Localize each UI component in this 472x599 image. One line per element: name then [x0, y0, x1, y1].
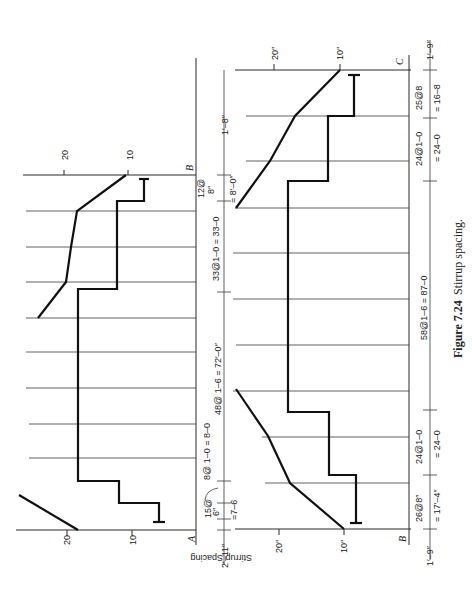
lower-dim-seg5: 25@8: [414, 86, 424, 110]
lower-support-label-b: B: [397, 536, 408, 542]
upper-required-spacing-curve-top: [38, 175, 126, 318]
lower-dim-seg2: 24@1–0: [414, 430, 424, 464]
lower-dim-seg3: 58@1–6 = 87–0: [419, 276, 429, 340]
stirrup-spacing-figure: 20 10 20 10 B A 1′–8″ 12@ 8″ = 8′–0″ 33@…: [0, 0, 472, 599]
lower-dim-seg1-total: = 17′–4″: [432, 489, 442, 522]
upper-dim-end-right: 1′–8″: [220, 114, 230, 135]
upper-dim-seg5-bot: 8″: [206, 185, 216, 194]
upper-dim-seg1-bot: 6″: [211, 507, 221, 516]
upper-dim-seg5-total: = 8′–0″: [228, 175, 238, 203]
figure-caption: Figure 7.24 Stirrup spacing.: [451, 219, 465, 358]
upper-diagram: 20 10 20 10 B A: [16, 58, 197, 545]
upper-support-label-b: B: [184, 165, 195, 171]
lower-required-spacing-curve-bottom: [236, 389, 344, 529]
upper-dim-leader: [205, 488, 218, 500]
lower-dim-seg1: 26@8″: [414, 494, 424, 522]
upper-tick-label-20-bottom: 20: [62, 535, 72, 545]
upper-tick-label-10-top: 10: [125, 150, 135, 160]
upper-provided-spacing-steps: [78, 179, 159, 522]
upper-dim-seg4: 33@1–0 = 33–0: [211, 217, 221, 281]
lower-tick-label-10-top: 10″: [335, 46, 345, 60]
lower-dimension-line: 1′–9″ 25@8 = 16–8 24@1–0 = 24–0 58@1–6 =…: [414, 39, 442, 566]
upper-dim-seg2: 8@ 1–0 = 8–0: [202, 423, 212, 480]
lower-dim-seg2-total: = 24–0: [432, 430, 442, 458]
upper-dim-seg1-total: =7–6: [229, 500, 239, 520]
upper-dimension-line: 1′–8″ 12@ 8″ = 8′–0″ 33@1–0 = 33–0 48@ 1…: [196, 70, 239, 568]
lower-support-label-c: C: [394, 58, 405, 65]
upper-tick-label-10-bottom: 10: [128, 535, 138, 545]
y-axis-label: Stirrup Spacing: [190, 553, 252, 563]
lower-dim-end-left: 1′–9″: [425, 545, 435, 566]
upper-dim-seg5-top: 12@: [196, 179, 206, 198]
lower-dim-seg4: 24@1–0: [414, 132, 424, 166]
lower-tick-label-20-bottom: 20″: [274, 539, 284, 553]
lower-dim-end-right: 1′–9″: [425, 39, 435, 60]
figure-number: Figure 7.24: [451, 300, 465, 358]
upper-tick-label-20-top: 20: [60, 150, 70, 160]
lower-dim-seg4-total: = 24–0: [432, 134, 442, 162]
upper-required-spacing-curve-bottom: [19, 495, 78, 530]
lower-tick-label-20-top: 20″: [270, 46, 280, 60]
figure-title: Stirrup spacing.: [451, 219, 465, 295]
lower-tick-label-10-bottom: 10″: [339, 539, 349, 553]
upper-dim-seg3: 48@ 1–6 = 72′–0″: [213, 342, 223, 415]
lower-dim-seg5-total: = 16–8: [432, 84, 442, 112]
upper-support-label-a: A: [186, 535, 197, 543]
